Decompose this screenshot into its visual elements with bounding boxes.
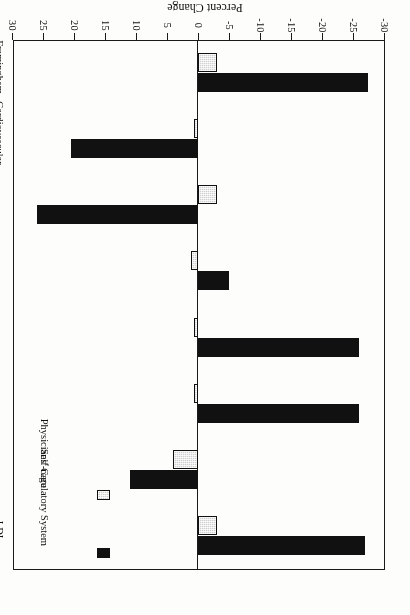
bar (198, 536, 365, 555)
legend-item: Self-regulatory System (94, 500, 110, 558)
bar (198, 271, 229, 290)
bar (194, 119, 198, 138)
bar-group (14, 172, 384, 238)
category-label-line: LDL (0, 521, 5, 541)
bar-group (14, 105, 384, 171)
bar-group (14, 437, 384, 503)
bar (130, 470, 198, 489)
plot-area (13, 40, 385, 570)
category-label-line: Framingham (0, 40, 5, 94)
bar-group (14, 304, 384, 370)
bar (198, 185, 217, 204)
gray-square-icon (97, 490, 110, 500)
bar (194, 318, 198, 337)
bar (198, 404, 359, 423)
bar (198, 516, 217, 535)
bar (198, 73, 369, 92)
bar-group (14, 370, 384, 436)
category-label-line: Cardiovascular (0, 102, 5, 166)
bar-group (14, 39, 384, 105)
bar (194, 384, 198, 403)
legend-item-label: Physicians' Care (39, 388, 50, 488)
bar (198, 338, 359, 357)
black-square-icon (97, 548, 110, 558)
chart-figure: 302520151050-5-10-15-20-25-30 LDLCholest… (0, 0, 410, 615)
bar-group (14, 238, 384, 304)
category-label: FraminghamRisk Index (0, 34, 5, 100)
chart-legend: Self-regulatory System Physicians' Care (94, 442, 110, 558)
category-label: CardiovascularCapacity (0, 100, 5, 166)
axis-title: Percent Change (0, 0, 410, 15)
category-label: LDLCholesterol (0, 498, 5, 564)
legend-item: Physicians' Care (94, 442, 110, 500)
bar (198, 53, 217, 72)
bar (71, 139, 198, 158)
bar (37, 205, 198, 224)
bar (173, 450, 198, 469)
bar (191, 251, 198, 270)
bar-group (14, 503, 384, 569)
